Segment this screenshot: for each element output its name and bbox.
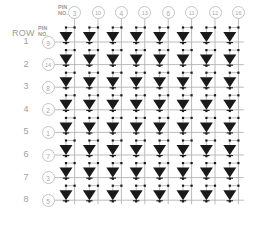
led-r3-c4 xyxy=(130,77,143,88)
row-pin-circle-2: 14 xyxy=(42,58,55,71)
row-number-6: 6 xyxy=(19,149,33,159)
led-r2-c6 xyxy=(177,55,190,66)
node-cathode-r8-c6 xyxy=(182,200,184,202)
node-anode-r1-c6 xyxy=(182,26,184,28)
node-cathode-r5-c7 xyxy=(205,133,207,135)
node-anode-r3-c4 xyxy=(135,72,137,74)
led-r2-c3 xyxy=(106,55,119,66)
node-col-r2-c4 xyxy=(144,49,146,51)
led-r8-c5 xyxy=(153,190,166,201)
node-cathode-r3-c8 xyxy=(229,87,231,89)
node-col-r6-c6 xyxy=(191,139,193,141)
row-pin-circle-6: 7 xyxy=(42,149,55,162)
led-r8-c6 xyxy=(177,190,190,201)
col-pin-circle-7: 12 xyxy=(209,6,222,19)
node-col-r6-c1 xyxy=(74,139,76,141)
node-anode-r4-c1 xyxy=(65,94,67,96)
node-col-r2-c8 xyxy=(237,49,239,51)
node-anode-r6-c7 xyxy=(205,139,207,141)
node-col-r5-c3 xyxy=(120,117,122,119)
led-r6-c3 xyxy=(106,145,119,156)
node-col-r1-c4 xyxy=(144,26,146,28)
node-col-r1-c1 xyxy=(74,26,76,28)
node-col-r6-c2 xyxy=(97,139,99,141)
node-cathode-r3-c2 xyxy=(88,87,90,89)
node-cathode-r2-c2 xyxy=(88,65,90,67)
led-r5-c8 xyxy=(223,122,236,133)
node-cathode-r4-c5 xyxy=(159,110,161,112)
node-col-r1-c2 xyxy=(97,26,99,28)
node-cathode-r6-c8 xyxy=(229,155,231,157)
node-cathode-r2-c3 xyxy=(112,65,114,67)
led-r1-c8 xyxy=(223,32,236,43)
led-r2-c1 xyxy=(60,55,73,66)
node-col-r3-c2 xyxy=(97,72,99,74)
node-anode-r8-c3 xyxy=(112,185,114,187)
led-r4-c7 xyxy=(200,100,213,111)
node-anode-r4-c7 xyxy=(205,94,207,96)
col-pin-circle-6: 11 xyxy=(185,6,198,19)
node-cathode-r8-c4 xyxy=(135,200,137,202)
node-anode-r2-c6 xyxy=(182,49,184,51)
led-r2-c7 xyxy=(200,55,213,66)
row-pin-circle-4: 2 xyxy=(42,103,55,116)
node-col-r2-c3 xyxy=(120,49,122,51)
led-r8-c2 xyxy=(83,190,96,201)
node-col-r5-c2 xyxy=(97,117,99,119)
node-cathode-r6-c4 xyxy=(135,155,137,157)
col-pin-circle-5: 6 xyxy=(162,6,175,19)
node-col-r1-c5 xyxy=(167,26,169,28)
led-r3-c8 xyxy=(223,77,236,88)
node-col-r2-c1 xyxy=(74,49,76,51)
node-anode-r1-c3 xyxy=(112,26,114,28)
node-cathode-r1-c3 xyxy=(112,42,114,44)
node-cathode-r3-c4 xyxy=(135,87,137,89)
node-cathode-r5-c6 xyxy=(182,133,184,135)
led-r2-c8 xyxy=(223,55,236,66)
node-col-r3-c4 xyxy=(144,72,146,74)
node-col-r4-c7 xyxy=(214,94,216,96)
led-r6-c1 xyxy=(60,145,73,156)
node-col-r2-c2 xyxy=(97,49,99,51)
node-anode-r8-c6 xyxy=(182,185,184,187)
led-r6-c5 xyxy=(153,145,166,156)
node-anode-r5-c8 xyxy=(229,117,231,119)
led-r5-c7 xyxy=(200,122,213,133)
node-anode-r8-c1 xyxy=(65,185,67,187)
node-cathode-r8-c3 xyxy=(112,200,114,202)
node-cathode-r1-c2 xyxy=(88,42,90,44)
led-r3-c3 xyxy=(106,77,119,88)
node-cathode-r5-c1 xyxy=(65,133,67,135)
led-r7-c2 xyxy=(83,168,96,179)
node-cathode-r6-c6 xyxy=(182,155,184,157)
node-anode-r4-c4 xyxy=(135,94,137,96)
node-cathode-r3-c6 xyxy=(182,87,184,89)
led-r1-c1 xyxy=(60,32,73,43)
node-col-r1-c7 xyxy=(214,26,216,28)
node-col-r1-c8 xyxy=(237,26,239,28)
led-r5-c2 xyxy=(83,122,96,133)
row-number-7: 7 xyxy=(19,172,33,182)
led-r8-c8 xyxy=(223,190,236,201)
node-cathode-r5-c5 xyxy=(159,133,161,135)
node-col-r3-c7 xyxy=(214,72,216,74)
led-r5-c1 xyxy=(60,122,73,133)
node-anode-r4-c5 xyxy=(159,94,161,96)
node-col-r4-c5 xyxy=(167,94,169,96)
node-cathode-r6-c5 xyxy=(159,155,161,157)
node-anode-r2-c1 xyxy=(65,49,67,51)
node-anode-r5-c3 xyxy=(112,117,114,119)
node-col-r4-c2 xyxy=(97,94,99,96)
node-cathode-r2-c5 xyxy=(159,65,161,67)
node-col-r6-c7 xyxy=(214,139,216,141)
node-anode-r8-c7 xyxy=(205,185,207,187)
led-r4-c2 xyxy=(83,100,96,111)
node-cathode-r2-c7 xyxy=(205,65,207,67)
node-cathode-r6-c3 xyxy=(112,155,114,157)
node-cathode-r3-c3 xyxy=(112,87,114,89)
node-col-r3-c6 xyxy=(191,72,193,74)
node-col-r6-c5 xyxy=(167,139,169,141)
led-r1-c6 xyxy=(177,32,190,43)
led-r8-c7 xyxy=(200,190,213,201)
node-anode-r6-c4 xyxy=(135,139,137,141)
